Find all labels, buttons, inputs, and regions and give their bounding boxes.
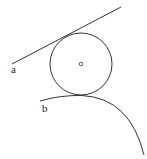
center-point-icon — [79, 62, 83, 66]
diagram-canvas — [0, 0, 147, 159]
label-a: a — [11, 64, 16, 75]
label-b: b — [42, 103, 48, 114]
arc-b — [40, 95, 144, 155]
tangent-line-a — [12, 7, 121, 64]
circle-o — [50, 33, 112, 95]
geometry-diagram: a b — [0, 0, 147, 159]
